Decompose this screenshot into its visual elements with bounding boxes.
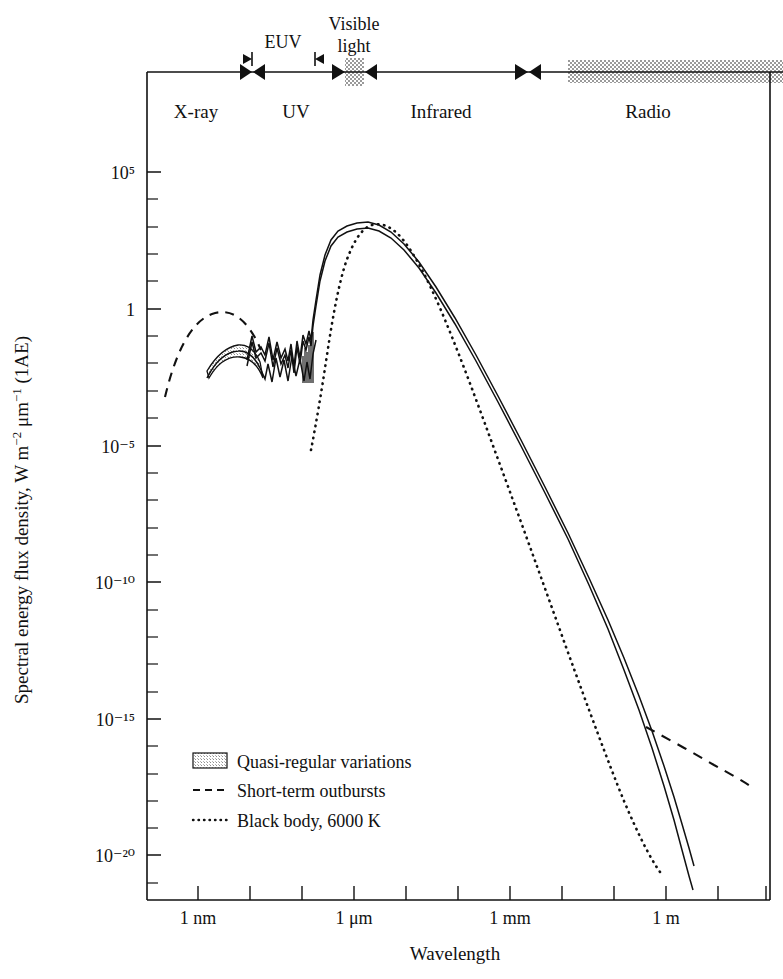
legend-label-outbursts: Short-term outbursts: [237, 781, 386, 801]
x-tick-label-1um: 1 μm: [335, 908, 372, 928]
visible-light-label-line1: Visible: [329, 14, 380, 34]
y-tick-label-4: 10⁻¹⁰: [95, 573, 135, 593]
x-axis-title: Wavelength: [410, 943, 501, 964]
y-tick-label-6: 10⁻²⁰: [95, 846, 135, 866]
page-background: [0, 0, 783, 979]
legend-swatch-quasi-regular: [193, 753, 227, 768]
spectrum-region-label-infrared: Infrared: [410, 101, 472, 122]
legend-label-quasi-regular: Quasi-regular variations: [237, 752, 411, 772]
x-tick-label-1nm: 1 nm: [180, 908, 217, 928]
y-tick-label-2: 1: [126, 300, 135, 320]
y-axis-title-mid: μm: [11, 402, 32, 432]
euv-label: EUV: [265, 32, 302, 52]
spectrum-region-label-radio: Radio: [625, 101, 670, 122]
spectrum-region-label-uv: UV: [282, 101, 310, 122]
y-tick-label-3: 10⁻⁵: [101, 437, 135, 457]
x-tick-label-1m: 1 m: [652, 908, 680, 928]
y-tick-label-5: 10⁻¹⁵: [96, 710, 135, 730]
legend-label-blackbody: Black body, 6000 K: [237, 811, 381, 831]
figure-canvas: EUV Visible light X-ray UV Infrared Radi…: [0, 0, 783, 979]
y-axis-title-lead: Spectral energy flux density, W m: [11, 445, 32, 704]
y-axis-title-exp2: −1: [9, 388, 24, 402]
y-axis-title-tail: (1AE): [11, 336, 33, 388]
x-tick-label-1mm: 1 mm: [489, 908, 531, 928]
y-axis-title-exp1: −2: [9, 432, 24, 446]
y-tick-label-1: 10⁵: [111, 163, 135, 183]
spectrum-region-label-xray: X-ray: [174, 101, 219, 122]
visible-light-label-line2: light: [337, 36, 370, 56]
